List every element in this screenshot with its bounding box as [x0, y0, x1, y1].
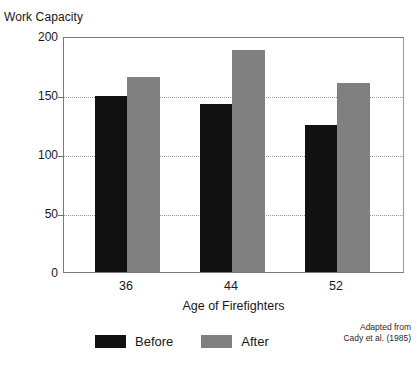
- bar-after-52: [337, 83, 370, 272]
- source-attribution: Adapted from Cady et al. (1985): [343, 322, 411, 344]
- y-tick-label-50: 50: [4, 208, 58, 220]
- y-tick-mark-150: [58, 97, 64, 98]
- bar-before-44: [200, 104, 232, 272]
- y-axis-title: Work Capacity: [4, 10, 83, 24]
- x-tick-label-36: 36: [119, 279, 133, 293]
- legend-label-before: Before: [135, 334, 173, 349]
- legend-label-after: After: [241, 334, 268, 349]
- bar-after-44: [232, 50, 265, 272]
- legend-swatch-before-icon: [95, 335, 126, 348]
- legend-item-before: Before: [95, 334, 173, 349]
- x-tick-label-44: 44: [224, 279, 238, 293]
- source-line-2: Cady et al. (1985): [343, 333, 411, 344]
- y-tick-mark-100: [58, 156, 64, 157]
- bar-before-52: [305, 125, 337, 273]
- bar-after-36: [127, 77, 160, 272]
- source-line-1: Adapted from: [343, 322, 411, 333]
- y-axis-tick-labels: 200 150 100 50 0: [0, 37, 58, 273]
- y-tick-label-100: 100: [4, 149, 58, 161]
- plot-area: [63, 37, 404, 273]
- chart-legend: Before After: [95, 334, 269, 349]
- x-axis-tick-labels: 36 44 52: [63, 279, 404, 299]
- bar-before-36: [95, 96, 127, 272]
- x-axis-title: Age of Firefighters: [63, 299, 404, 313]
- y-tick-label-0: 0: [4, 267, 58, 279]
- x-tick-label-52: 52: [329, 279, 343, 293]
- legend-item-after: After: [201, 334, 268, 349]
- y-tick-mark-50: [58, 215, 64, 216]
- y-tick-label-150: 150: [4, 90, 58, 102]
- y-tick-label-200: 200: [4, 31, 58, 43]
- legend-swatch-after-icon: [201, 335, 232, 348]
